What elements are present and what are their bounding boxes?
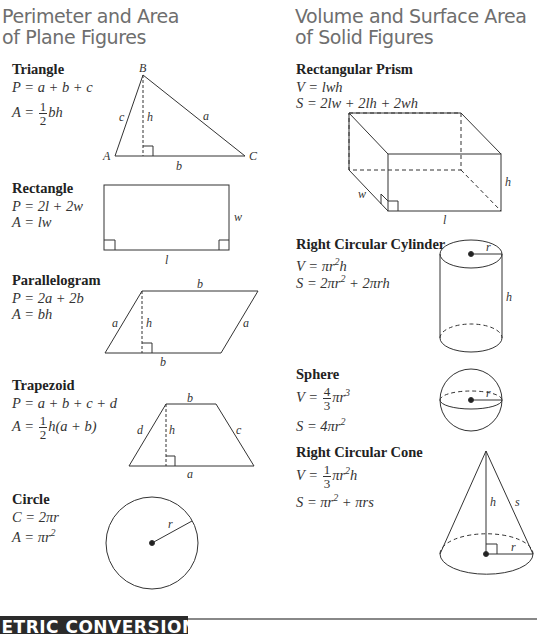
cone-diagram: h s r xyxy=(440,451,533,574)
svg-text:c: c xyxy=(236,423,242,437)
trapezoid-diagram: b d h c a xyxy=(129,391,254,481)
svg-text:a: a xyxy=(203,109,209,123)
sphere-diagram: r xyxy=(440,369,502,431)
svg-text:b: b xyxy=(160,355,166,369)
svg-text:w: w xyxy=(358,187,366,201)
svg-text:r: r xyxy=(168,517,173,531)
svg-text:l: l xyxy=(165,253,169,267)
svg-text:a: a xyxy=(243,316,249,330)
svg-text:h: h xyxy=(147,110,153,124)
svg-text:h: h xyxy=(505,175,511,189)
triangle-diagram: B A C c h a b xyxy=(102,61,258,173)
svg-text:b: b xyxy=(187,391,193,405)
svg-text:a: a xyxy=(112,316,118,330)
prism-diagram: w h l xyxy=(349,113,511,227)
svg-text:h: h xyxy=(506,290,512,304)
svg-text:C: C xyxy=(249,149,258,163)
svg-text:h: h xyxy=(146,316,152,330)
svg-text:r: r xyxy=(511,540,516,554)
svg-text:c: c xyxy=(119,110,125,124)
parallelogram-diagram: b a h a b xyxy=(105,277,258,369)
svg-text:h: h xyxy=(169,423,175,437)
cylinder-diagram: r h xyxy=(440,240,512,352)
svg-text:B: B xyxy=(139,61,147,75)
svg-text:h: h xyxy=(490,495,496,509)
rectangle-diagram: w l xyxy=(104,185,242,267)
circle-diagram: r xyxy=(106,497,198,589)
svg-text:d: d xyxy=(137,423,144,437)
figure-diagrams: B A C c h a b w l b a h a b b d h c a xyxy=(0,0,537,634)
svg-text:r: r xyxy=(486,240,491,254)
svg-text:b: b xyxy=(197,277,203,291)
svg-text:A: A xyxy=(102,149,111,163)
footer-banner-text: METRIC CONVERSIONS xyxy=(0,618,209,634)
svg-text:r: r xyxy=(486,386,491,400)
svg-text:w: w xyxy=(234,210,242,224)
svg-text:b: b xyxy=(176,159,182,173)
svg-text:a: a xyxy=(187,467,193,481)
svg-text:l: l xyxy=(443,213,447,227)
footer-rule xyxy=(185,618,537,620)
svg-text:s: s xyxy=(515,495,520,509)
